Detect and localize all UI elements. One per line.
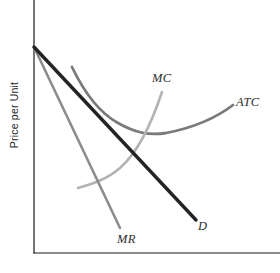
monopolistic-competition-chart: Price per Unit MC ATC MR D — [0, 0, 280, 273]
y-axis-label: Price per Unit — [8, 70, 20, 160]
demand-curve-label: D — [198, 219, 207, 234]
mr-curve-label: MR — [117, 232, 136, 247]
atc-curve-label: ATC — [236, 95, 259, 110]
mc-curve-label: MC — [152, 71, 171, 86]
demand-curve — [34, 47, 196, 220]
chart-plot-area — [0, 0, 280, 273]
